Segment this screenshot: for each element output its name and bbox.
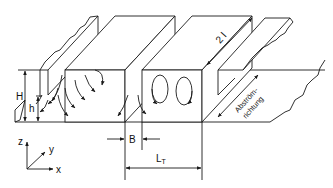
dimension-h: h — [29, 96, 42, 121]
dimension-B: B — [107, 122, 160, 180]
label-h: h — [29, 103, 35, 114]
label-LT: LT — [156, 153, 167, 165]
label-B: B — [129, 134, 136, 145]
axis-y-label: y — [49, 144, 54, 155]
label-H: H — [16, 91, 23, 102]
rib-vortex-diagram: H h 2 l Abström- richtung B LT z y x — [0, 0, 333, 188]
dimension-LT: LT — [126, 122, 202, 180]
coordinate-axes: z y x — [18, 136, 61, 175]
axis-z-label: z — [18, 136, 23, 147]
dimension-H: H — [16, 70, 40, 121]
axis-x-label: x — [56, 164, 61, 175]
